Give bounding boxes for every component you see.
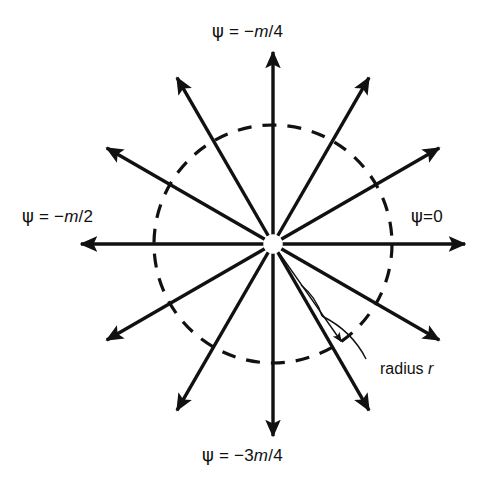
axis-label-bottom-eq: = −3 — [214, 446, 254, 465]
psi-symbol-top: ψ — [212, 20, 224, 41]
axis-label-left-eq: = − — [34, 207, 64, 226]
psi-symbol-right: ψ — [411, 205, 423, 226]
axis-label-left: ψ = −m/2 — [22, 207, 93, 225]
axis-label-top-frac: /4 — [269, 22, 284, 41]
axis-label-left-var: m — [64, 207, 78, 226]
radius-label: radius r — [380, 361, 433, 377]
axis-label-bottom: ψ = −3m/4 — [202, 446, 283, 464]
center-gap — [264, 235, 283, 254]
radius-label-var: r — [428, 360, 433, 377]
ray-120deg — [177, 78, 268, 236]
axis-label-right: ψ=0 — [411, 207, 443, 225]
axis-label-bottom-var: m — [254, 446, 268, 465]
axis-label-right-frac: 0 — [433, 207, 443, 226]
psi-symbol-bottom: ψ — [202, 444, 214, 465]
ray-330deg — [281, 249, 439, 340]
ray-diagram-canvas — [0, 0, 484, 492]
axis-label-top-eq: = − — [224, 22, 254, 41]
axis-label-left-frac: /2 — [79, 207, 94, 226]
axis-label-right-eq: = — [423, 207, 433, 226]
axis-label-top-var: m — [254, 22, 268, 41]
radius-annotation — [278, 252, 366, 359]
radius-label-text: radius — [380, 360, 428, 377]
psi-symbol-left: ψ — [22, 205, 34, 226]
axis-label-top: ψ = −m/4 — [212, 22, 283, 40]
axis-label-bottom-frac: /4 — [268, 446, 283, 465]
ray-300deg — [278, 252, 369, 410]
